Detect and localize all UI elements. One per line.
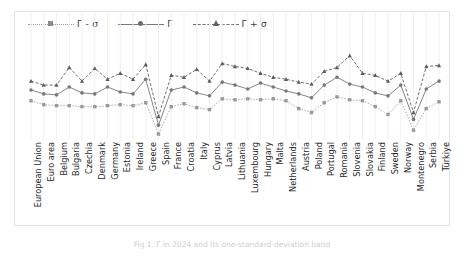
data-point (373, 91, 377, 95)
x-axis-tick-label: Lithuania (238, 142, 246, 180)
data-point (348, 82, 352, 86)
data-point (411, 110, 415, 114)
x-axis-tick-label: Portugal (327, 142, 335, 176)
x-axis-labels: European UnionEuro areaBelgiumBulgariaCz… (15, 142, 449, 226)
data-point (272, 97, 275, 100)
figure-root: Γ - σ Γ Γ + σ European UnionEuro areaBel… (0, 0, 464, 259)
data-point (297, 92, 301, 96)
chart-svg (15, 12, 449, 140)
data-point (67, 65, 71, 69)
data-point (170, 105, 173, 108)
data-point (131, 104, 134, 107)
plot-area (15, 12, 449, 140)
x-axis-tick-label: Slovakia (366, 142, 374, 176)
data-point (399, 99, 402, 102)
data-point (42, 92, 46, 96)
data-point (348, 53, 352, 57)
data-point (93, 66, 97, 70)
data-point (310, 111, 313, 114)
x-axis-tick-label: France (174, 142, 182, 169)
data-point (182, 102, 185, 105)
data-point (412, 118, 416, 122)
x-axis-tick-label: Türkiye (442, 142, 450, 171)
data-point (42, 103, 45, 106)
data-point (386, 94, 390, 98)
x-axis-tick-label: Croatia (187, 142, 195, 171)
x-axis-tick-label: Spain (162, 142, 170, 165)
data-point (144, 77, 148, 81)
data-point (259, 81, 263, 85)
data-point (195, 67, 199, 71)
x-axis-tick-label: Euro area (47, 142, 55, 181)
data-point (118, 71, 122, 75)
x-axis-tick-label: Romania (340, 142, 348, 178)
data-point (233, 83, 237, 87)
data-point (118, 90, 122, 94)
data-point (322, 83, 326, 87)
x-axis-tick-label: Bulgaria (72, 142, 80, 176)
data-point (221, 97, 224, 100)
x-axis-tick-label: Finland (378, 142, 386, 171)
data-point (309, 82, 313, 86)
x-axis-tick-label: Montenegro (417, 142, 425, 191)
data-point (437, 79, 441, 83)
data-point (259, 98, 262, 101)
data-point (144, 62, 148, 66)
x-axis-tick-label: Belgium (60, 142, 68, 176)
data-point (169, 73, 173, 77)
data-point (68, 104, 71, 107)
data-point (55, 93, 59, 97)
data-point (182, 85, 186, 89)
x-axis-tick-label: Czechia (85, 142, 93, 174)
data-point (335, 95, 338, 98)
data-point (80, 105, 83, 108)
data-point (93, 92, 97, 96)
data-point (208, 94, 212, 98)
data-point (271, 85, 275, 89)
data-point (119, 103, 122, 106)
data-point (310, 96, 314, 100)
x-axis-tick-label: Norway (404, 142, 412, 173)
data-point (246, 97, 249, 100)
data-point (361, 85, 365, 89)
x-axis-tick-label: Hungary (264, 142, 272, 177)
x-axis-tick-label: Sweden (391, 142, 399, 174)
data-point (106, 85, 110, 89)
data-point (220, 61, 224, 65)
x-axis-tick-label: Malta (276, 142, 284, 165)
data-point (157, 123, 161, 127)
data-point (425, 107, 428, 110)
data-point (284, 89, 288, 93)
data-point (55, 104, 58, 107)
data-point (271, 75, 275, 79)
data-point (29, 79, 33, 83)
data-point (144, 101, 147, 104)
data-point (374, 105, 377, 108)
x-axis-tick-label: Austria (302, 142, 310, 171)
data-point (386, 113, 389, 116)
data-point (195, 91, 199, 95)
data-point (29, 88, 33, 92)
data-point (156, 114, 160, 118)
data-point (67, 85, 71, 89)
x-axis-tick-label: Denmark (98, 142, 106, 180)
data-point (29, 99, 32, 102)
x-axis-tick-label: European Union (34, 142, 42, 207)
data-point (208, 108, 211, 111)
data-point (93, 105, 96, 108)
data-point (80, 91, 84, 95)
x-axis-tick-label: Serbia (429, 142, 437, 168)
data-point (412, 128, 415, 131)
x-axis-tick-label: Latvia (225, 142, 233, 167)
data-point (361, 99, 364, 102)
data-point (323, 101, 326, 104)
x-axis-tick-label: Poland (315, 142, 323, 169)
x-axis-tick-label: Germany (111, 142, 119, 180)
x-axis-tick-label: Luxembourg (251, 142, 259, 193)
data-point (246, 87, 250, 91)
data-point (195, 106, 198, 109)
data-point (437, 100, 440, 103)
data-point (106, 104, 109, 107)
data-point (297, 107, 300, 110)
data-point (284, 99, 287, 102)
